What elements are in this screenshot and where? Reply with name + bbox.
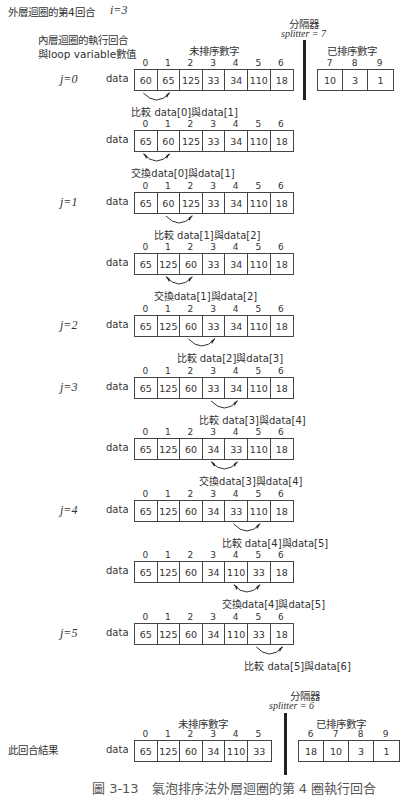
array-cell: 33 [248, 741, 271, 761]
array-cell: 18 [299, 741, 324, 761]
index-label: 5 [247, 729, 270, 740]
array-label: data [106, 744, 129, 755]
array-cell: 10 [324, 741, 349, 761]
array-cell: 110 [225, 741, 248, 761]
result-label: 此回合結果 [8, 742, 58, 757]
result-unsorted-array: 65 125 60 34 110 33 [134, 740, 272, 762]
array-cell: 34 [203, 741, 226, 761]
index-label: 4 [224, 729, 247, 740]
figure-caption: 圖 3-13 氣泡排序法外層迴圈的第 4 圈執行回合 [92, 778, 376, 797]
index-label: 0 [134, 729, 157, 740]
array-cell: 125 [158, 741, 181, 761]
index-label: 1 [157, 729, 180, 740]
array-cell: 60 [180, 741, 203, 761]
result-sorted-index-row: 6 7 8 9 [298, 729, 398, 740]
index-label: 7 [323, 729, 348, 740]
index-label: 9 [373, 729, 398, 740]
result-splitter-line [284, 713, 287, 775]
index-label: 8 [348, 729, 373, 740]
index-label: 2 [179, 729, 202, 740]
result-index-row: 0 1 2 3 4 5 [134, 729, 270, 740]
index-label: 6 [298, 729, 323, 740]
array-cell: 1 [374, 741, 399, 761]
result-splitter-value: splitter = 6 [269, 700, 314, 711]
array-cell: 3 [349, 741, 374, 761]
array-cell: 65 [135, 741, 158, 761]
result-sorted-array: 18 10 3 1 [298, 740, 400, 762]
compare-caption: 比較 data[5]與data[6] [244, 658, 351, 673]
index-label: 3 [202, 729, 225, 740]
